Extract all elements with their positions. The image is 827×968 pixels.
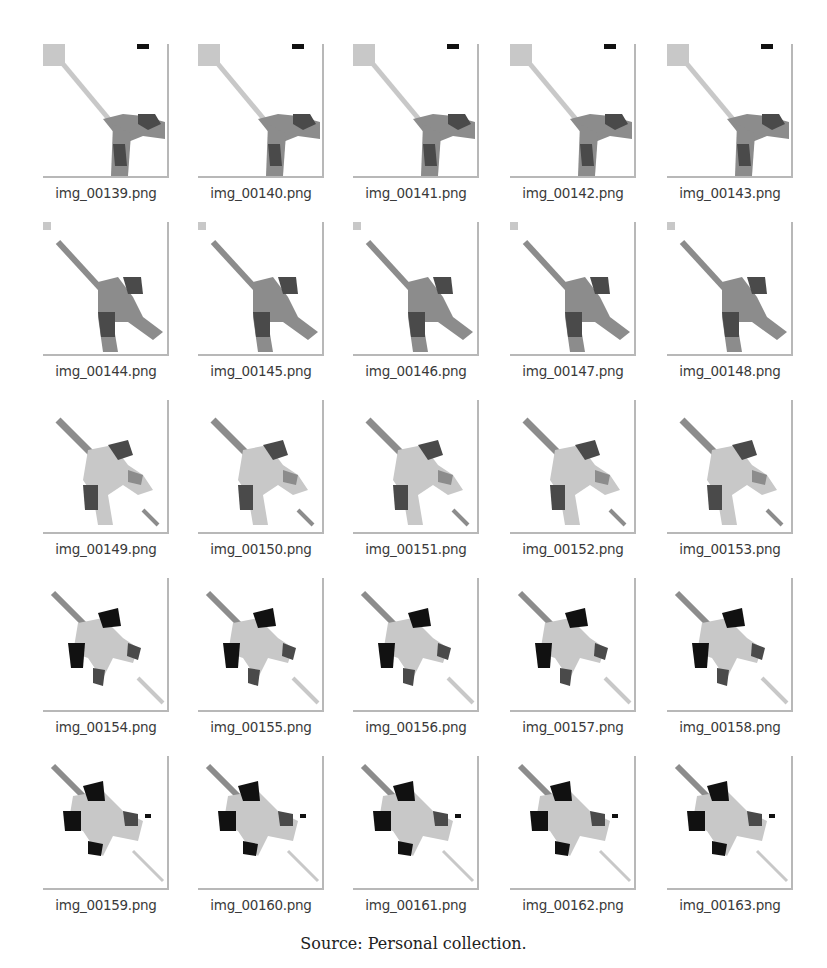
file-name-label[interactable]: img_00145.png (182, 363, 340, 379)
file-thumbnail-item[interactable]: img_00139.png (43, 44, 201, 222)
file-name-label[interactable]: img_00151.png (337, 541, 495, 557)
matrix-pattern-icon (198, 756, 322, 888)
file-thumbnail-item[interactable]: img_00140.png (198, 44, 356, 222)
file-thumbnail-item[interactable]: img_00158.png (667, 578, 825, 756)
file-name-label[interactable]: img_00160.png (182, 897, 340, 913)
file-thumbnail-item[interactable]: img_00153.png (667, 400, 825, 578)
image-preview[interactable] (667, 222, 793, 356)
image-preview[interactable] (43, 400, 169, 534)
matrix-pattern-icon (667, 400, 791, 532)
file-thumbnail-item[interactable]: img_00150.png (198, 400, 356, 578)
file-name-label[interactable]: img_00150.png (182, 541, 340, 557)
file-name-label[interactable]: img_00163.png (651, 897, 809, 913)
matrix-pattern-icon (667, 578, 791, 710)
file-name-label[interactable]: img_00156.png (337, 719, 495, 735)
matrix-pattern-icon (353, 756, 477, 888)
file-name-label[interactable]: img_00162.png (494, 897, 652, 913)
file-thumbnail-item[interactable]: img_00159.png (43, 756, 201, 934)
file-name-label[interactable]: img_00144.png (27, 363, 185, 379)
file-name-label[interactable]: img_00148.png (651, 363, 809, 379)
matrix-pattern-icon (510, 44, 634, 176)
file-name-label[interactable]: img_00142.png (494, 185, 652, 201)
image-preview[interactable] (43, 222, 169, 356)
image-preview[interactable] (198, 44, 324, 178)
thumbnail-row: img_00159.png img_00160.png img_00161.pn… (0, 756, 827, 934)
file-name-label[interactable]: img_00149.png (27, 541, 185, 557)
matrix-pattern-icon (510, 578, 634, 710)
file-name-label[interactable]: img_00155.png (182, 719, 340, 735)
matrix-pattern-icon (667, 756, 791, 888)
file-name-label[interactable]: img_00157.png (494, 719, 652, 735)
image-preview[interactable] (510, 756, 636, 890)
file-thumbnail-item[interactable]: img_00160.png (198, 756, 356, 934)
file-thumbnail-item[interactable]: img_00146.png (353, 222, 511, 400)
thumbnail-row: img_00144.png img_00145.png img_00146.pn… (0, 222, 827, 400)
file-name-label[interactable]: img_00141.png (337, 185, 495, 201)
file-thumbnail-item[interactable]: img_00141.png (353, 44, 511, 222)
file-name-label[interactable]: img_00161.png (337, 897, 495, 913)
image-preview[interactable] (43, 578, 169, 712)
matrix-pattern-icon (198, 578, 322, 710)
file-thumbnail-item[interactable]: img_00149.png (43, 400, 201, 578)
file-name-label[interactable]: img_00143.png (651, 185, 809, 201)
file-thumbnail-item[interactable]: img_00151.png (353, 400, 511, 578)
file-thumbnail-item[interactable]: img_00157.png (510, 578, 668, 756)
image-preview[interactable] (667, 756, 793, 890)
thumbnail-row: img_00154.png img_00155.png img_00156.pn… (0, 578, 827, 756)
image-preview[interactable] (198, 578, 324, 712)
file-thumbnail-item[interactable]: img_00162.png (510, 756, 668, 934)
file-thumbnail-item[interactable]: img_00145.png (198, 222, 356, 400)
file-thumbnail-item[interactable]: img_00152.png (510, 400, 668, 578)
file-name-label[interactable]: img_00153.png (651, 541, 809, 557)
matrix-pattern-icon (43, 44, 167, 176)
matrix-pattern-icon (353, 400, 477, 532)
file-thumbnail-item[interactable]: img_00155.png (198, 578, 356, 756)
matrix-pattern-icon (510, 222, 634, 354)
image-preview[interactable] (198, 400, 324, 534)
image-preview[interactable] (667, 578, 793, 712)
file-thumbnail-item[interactable]: img_00156.png (353, 578, 511, 756)
image-preview[interactable] (198, 756, 324, 890)
matrix-pattern-icon (198, 44, 322, 176)
matrix-pattern-icon (353, 578, 477, 710)
image-preview[interactable] (43, 756, 169, 890)
image-preview[interactable] (198, 222, 324, 356)
file-name-label[interactable]: img_00146.png (337, 363, 495, 379)
file-thumbnail-item[interactable]: img_00148.png (667, 222, 825, 400)
thumbnail-row: img_00139.png img_00140.png img_00141.pn… (0, 44, 827, 222)
file-thumbnail-item[interactable]: img_00142.png (510, 44, 668, 222)
file-name-label[interactable]: img_00159.png (27, 897, 185, 913)
image-preview[interactable] (510, 222, 636, 356)
image-preview[interactable] (510, 578, 636, 712)
image-preview[interactable] (353, 578, 479, 712)
file-name-label[interactable]: img_00154.png (27, 719, 185, 735)
image-preview[interactable] (353, 756, 479, 890)
matrix-pattern-icon (353, 222, 477, 354)
matrix-pattern-icon (43, 578, 167, 710)
image-preview[interactable] (353, 222, 479, 356)
image-preview[interactable] (353, 400, 479, 534)
image-preview[interactable] (353, 44, 479, 178)
file-thumbnail-item[interactable]: img_00143.png (667, 44, 825, 222)
file-thumbnail-item[interactable]: img_00147.png (510, 222, 668, 400)
file-thumbnail-item[interactable]: img_00161.png (353, 756, 511, 934)
image-preview[interactable] (667, 44, 793, 178)
thumbnail-row: img_00149.png img_00150.png img_00151.pn… (0, 400, 827, 578)
image-preview[interactable] (43, 44, 169, 178)
file-thumbnail-item[interactable]: img_00154.png (43, 578, 201, 756)
file-name-label[interactable]: img_00152.png (494, 541, 652, 557)
matrix-pattern-icon (353, 44, 477, 176)
file-thumbnail-item[interactable]: img_00163.png (667, 756, 825, 934)
matrix-pattern-icon (43, 222, 167, 354)
image-preview[interactable] (667, 400, 793, 534)
file-thumbnail-item[interactable]: img_00144.png (43, 222, 201, 400)
matrix-pattern-icon (667, 44, 791, 176)
image-preview[interactable] (510, 44, 636, 178)
matrix-pattern-icon (198, 400, 322, 532)
file-name-label[interactable]: img_00140.png (182, 185, 340, 201)
file-name-label[interactable]: img_00139.png (27, 185, 185, 201)
image-preview[interactable] (510, 400, 636, 534)
file-name-label[interactable]: img_00158.png (651, 719, 809, 735)
file-name-label[interactable]: img_00147.png (494, 363, 652, 379)
matrix-pattern-icon (510, 756, 634, 888)
